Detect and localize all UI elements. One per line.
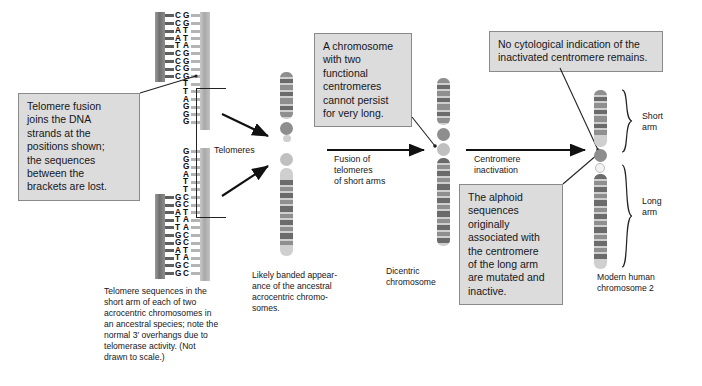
- bracket-long-arm: [620, 163, 642, 273]
- chromosome-band: [594, 124, 607, 128]
- chromosome-band: [594, 200, 607, 206]
- chromosome-band: [594, 116, 607, 122]
- chromosome-band: [594, 208, 607, 212]
- chromosome-band: [594, 254, 607, 259]
- chromosome-band: [594, 130, 607, 135]
- figure-canvas: CGCGATATTACGCGCGCGTTAGGG GGGATTGCGCATTAT…: [0, 0, 702, 386]
- chromosome-band: [594, 187, 607, 192]
- centromere-inactive: [595, 163, 605, 173]
- chromosome-band: [594, 110, 607, 114]
- label-short-arm: Short arm: [642, 111, 663, 133]
- chromosome-band: [594, 103, 607, 108]
- chromosome-band: [594, 174, 607, 179]
- label-long-arm: Long arm: [642, 196, 662, 218]
- chromosome-modern-human-2: [592, 90, 612, 275]
- chromosome-band: [594, 194, 607, 198]
- bracket-short-arm: [620, 88, 642, 158]
- chromosome-band: [594, 248, 607, 252]
- chromosome-band: [594, 90, 607, 95]
- chromosome-band: [594, 214, 607, 219]
- caption-modern-human: Modern human chromosome 2: [597, 272, 697, 294]
- chromosome-band: [594, 97, 607, 101]
- modern-short-arm: [594, 90, 607, 147]
- chromosome-band: [594, 235, 607, 239]
- caption-dna-sequences: Telomere sequences in the short arm of e…: [104, 286, 254, 363]
- modern-long-arm: [594, 174, 607, 269]
- centromere-active: [594, 149, 607, 162]
- chromosome-band: [594, 181, 607, 185]
- chromosome-band: [594, 227, 607, 233]
- caption-dicentric: Dicentric chromosome: [386, 266, 466, 288]
- chromosome-band: [594, 241, 607, 246]
- caption-banded-appearance: Likely banded appear- ance of the ancest…: [252, 270, 352, 314]
- chromosome-band: [594, 221, 607, 225]
